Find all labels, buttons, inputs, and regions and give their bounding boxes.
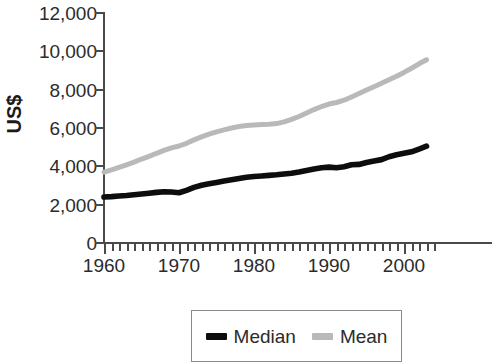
y-tick-label: 2,000 xyxy=(11,196,97,215)
x-minor-tick-mark xyxy=(344,244,346,251)
x-tick-label: 1980 xyxy=(219,256,289,275)
y-tick-mark xyxy=(95,50,103,52)
x-minor-tick-mark xyxy=(322,244,324,251)
x-minor-tick-mark xyxy=(337,244,339,251)
x-minor-tick-mark xyxy=(232,244,234,251)
x-minor-tick-mark xyxy=(134,244,136,251)
legend-label-mean: Mean xyxy=(340,327,388,346)
x-minor-tick-mark xyxy=(209,244,211,251)
x-minor-tick-mark xyxy=(239,244,241,251)
y-axis-line xyxy=(103,12,105,244)
legend-label-median: Median xyxy=(234,327,296,346)
x-minor-tick-mark xyxy=(374,244,376,251)
x-minor-tick-mark xyxy=(157,244,159,251)
x-minor-tick-mark xyxy=(112,244,114,251)
x-tick-label: 1960 xyxy=(69,256,139,275)
x-minor-tick-mark xyxy=(224,244,226,251)
x-minor-tick-mark xyxy=(217,244,219,251)
y-tick-mark xyxy=(95,204,103,206)
y-tick-label: 4,000 xyxy=(11,157,97,176)
y-axis-tick-labels: 12,00010,0008,0006,0004,0002,0000 xyxy=(5,0,97,352)
y-tick-mark xyxy=(95,89,103,91)
x-minor-tick-mark xyxy=(352,244,354,251)
x-minor-tick-mark xyxy=(307,244,309,251)
x-minor-tick-mark xyxy=(389,244,391,251)
chart-legend: Median Mean xyxy=(191,310,402,362)
x-minor-tick-mark xyxy=(419,244,421,251)
y-tick-label: 10,000 xyxy=(11,42,97,61)
x-major-tick-mark xyxy=(104,244,106,254)
x-minor-tick-mark xyxy=(127,244,129,251)
y-tick-label: 8,000 xyxy=(11,81,97,100)
median-line xyxy=(104,146,427,197)
legend-item-median: Median xyxy=(198,327,304,346)
x-minor-tick-mark xyxy=(359,244,361,251)
y-tick-mark xyxy=(95,127,103,129)
y-tick-label: 6,000 xyxy=(11,119,97,138)
x-minor-tick-mark xyxy=(172,244,174,251)
x-minor-tick-mark xyxy=(262,244,264,251)
x-minor-tick-mark xyxy=(292,244,294,251)
x-minor-tick-mark xyxy=(367,244,369,251)
x-minor-tick-mark xyxy=(187,244,189,251)
legend-item-mean: Mean xyxy=(304,327,396,346)
x-minor-tick-mark xyxy=(382,244,384,251)
x-minor-tick-mark xyxy=(202,244,204,251)
x-minor-tick-mark xyxy=(277,244,279,251)
x-tick-label: 1990 xyxy=(294,256,364,275)
y-tick-label: 0 xyxy=(11,234,97,253)
y-tick-mark xyxy=(95,12,103,14)
x-minor-tick-mark xyxy=(427,244,429,251)
x-minor-tick-mark xyxy=(247,244,249,251)
x-minor-tick-mark xyxy=(269,244,271,251)
x-minor-tick-mark xyxy=(149,244,151,251)
x-minor-tick-mark xyxy=(434,244,436,251)
y-tick-mark xyxy=(95,165,103,167)
x-major-tick-mark xyxy=(179,244,181,254)
y-tick-mark xyxy=(95,242,103,244)
x-minor-tick-mark xyxy=(397,244,399,251)
mean-line xyxy=(104,60,427,172)
x-minor-tick-mark xyxy=(284,244,286,251)
x-major-tick-mark xyxy=(329,244,331,254)
x-minor-tick-mark xyxy=(119,244,121,251)
x-minor-tick-mark xyxy=(412,244,414,251)
x-tick-label: 1970 xyxy=(144,256,214,275)
y-tick-label: 12,000 xyxy=(11,4,97,23)
mean-swatch-icon xyxy=(312,333,333,340)
x-tick-label: 2000 xyxy=(369,256,439,275)
x-major-tick-mark xyxy=(254,244,256,254)
x-minor-tick-mark xyxy=(194,244,196,251)
x-minor-tick-mark xyxy=(164,244,166,251)
median-swatch-icon xyxy=(206,333,227,340)
x-minor-tick-mark xyxy=(314,244,316,251)
x-minor-tick-mark xyxy=(142,244,144,251)
x-minor-tick-mark xyxy=(299,244,301,251)
x-major-tick-mark xyxy=(404,244,406,254)
